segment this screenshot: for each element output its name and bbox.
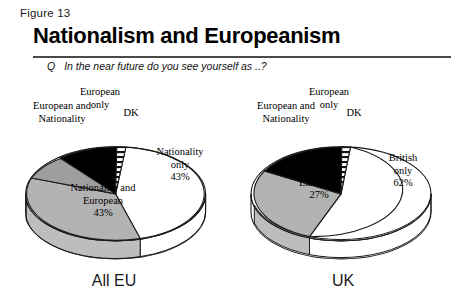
question-line: QIn the near future do you see yourself …	[47, 60, 267, 72]
slice-pct-european-only: 5%	[323, 131, 345, 142]
pie-caption-all-eu: All EU	[46, 272, 182, 290]
callout-european-and-nationality: European andNationality	[8, 100, 116, 125]
callout-european-and-nationality: European andNationality	[231, 100, 341, 125]
slice-label-british-only: Britishonly62%	[372, 152, 434, 190]
title-divider	[33, 56, 451, 58]
slice-label-nationality-and-european: Nationality andEuropean43%	[55, 182, 151, 220]
figure-page: Figure 13 Nationalism and Europeanism QI…	[0, 0, 462, 295]
callout-dk: DK	[341, 107, 367, 120]
callout-dk: DK	[118, 107, 144, 120]
slice-pct-european-and-nationality: 7%	[65, 138, 87, 149]
figure-number-label: Figure 13	[20, 7, 70, 19]
page-title: Nationalism and Europeanism	[33, 23, 340, 49]
slice-label-nationality-only: Nationalityonly43%	[144, 146, 216, 184]
slice-pct-european-only: 4%	[93, 129, 115, 140]
pie-caption-uk: UK	[275, 272, 411, 290]
pie-chart-uk: Europeanonly European andNationality DK …	[231, 86, 462, 295]
question-marker: Q	[47, 60, 55, 72]
pie-chart-all-eu: Europeanonly European andNationality DK …	[0, 86, 231, 295]
question-text: In the near future do you see yourself a…	[64, 60, 267, 72]
slice-label-british-and-european: British andEuropean27%	[273, 164, 365, 202]
slice-pct-european-and-nationality: 4%	[296, 134, 318, 145]
